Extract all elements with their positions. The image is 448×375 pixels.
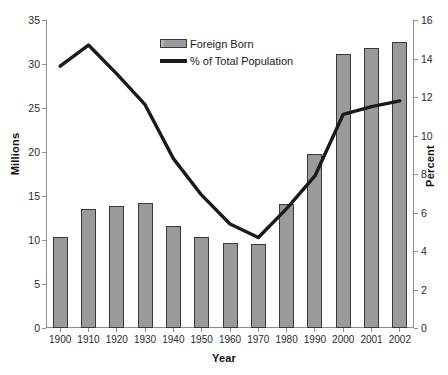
- x-axis-tick-mark: [116, 328, 117, 332]
- y-axis-right-tick-mark: [414, 251, 418, 252]
- legend-item-foreign-born: Foreign Born: [160, 36, 293, 51]
- y-axis-right-tick-label: 0: [421, 322, 448, 334]
- x-axis-tick-mark: [60, 328, 61, 332]
- bar-swatch-icon: [160, 39, 187, 48]
- y-axis-left-tick-label: 20: [12, 146, 40, 158]
- y-axis-left-tick-label: 30: [12, 58, 40, 70]
- x-axis-tick-mark: [314, 328, 315, 332]
- x-axis-tick-mark: [88, 328, 89, 332]
- x-axis-title: Year: [0, 352, 448, 364]
- y-axis-left-tick-label: 0: [12, 322, 40, 334]
- x-axis-tick-mark: [286, 328, 287, 332]
- x-axis-tick-mark: [201, 328, 202, 332]
- y2-axis-title: Percent: [424, 145, 436, 187]
- line-swatch-icon: [160, 59, 187, 63]
- y-axis-right-tick-label: 14: [421, 53, 448, 65]
- legend-label-foreign-born: Foreign Born: [190, 38, 254, 50]
- legend-label-percent-of-total-population: % of Total Population: [190, 55, 293, 67]
- y-axis-right-tick-mark: [414, 59, 418, 60]
- y-axis-right-tick-label: 8: [421, 168, 448, 180]
- y-axis-right-tick-mark: [414, 174, 418, 175]
- y-axis-left-tick-mark: [42, 328, 46, 329]
- y-axis-right-tick-mark: [414, 97, 418, 98]
- y-axis-right-tick-label: 4: [421, 245, 448, 257]
- y-axis-right-tick-mark: [414, 213, 418, 214]
- chart-container: Millions Percent Year 05101520253035 024…: [0, 0, 448, 375]
- y-axis-left-tick-label: 5: [12, 278, 40, 290]
- y-axis-left-tick-label: 35: [12, 14, 40, 26]
- chart-legend: Foreign Born % of Total Population: [160, 36, 293, 70]
- y-axis-right-tick-mark: [414, 290, 418, 291]
- x-axis-tick-mark: [173, 328, 174, 332]
- y-axis-right-tick-mark: [414, 136, 418, 137]
- y-axis-right-tick-label: 10: [421, 130, 448, 142]
- y-axis-right-tick-label: 16: [421, 14, 448, 26]
- y-axis-right-tick-label: 12: [421, 91, 448, 103]
- y-axis-left-tick-label: 25: [12, 102, 40, 114]
- x-axis-tick-mark: [230, 328, 231, 332]
- x-axis-tick-mark: [258, 328, 259, 332]
- line-path: [60, 45, 400, 237]
- x-axis-tick-mark: [399, 328, 400, 332]
- y-axis-right-tick-label: 2: [421, 284, 448, 296]
- y-axis-right-tick-mark: [414, 328, 418, 329]
- x-axis-tick-mark: [145, 328, 146, 332]
- y-axis-left-tick-label: 15: [12, 190, 40, 202]
- legend-item-percent-of-total-population: % of Total Population: [160, 53, 293, 68]
- y-axis-left-tick-label: 10: [12, 234, 40, 246]
- y-axis-right-tick-mark: [414, 20, 418, 21]
- x-axis-tick-mark: [371, 328, 372, 332]
- y-axis-right-tick-label: 6: [421, 207, 448, 219]
- x-axis-tick-label: 2002: [380, 334, 420, 345]
- x-axis-tick-mark: [343, 328, 344, 332]
